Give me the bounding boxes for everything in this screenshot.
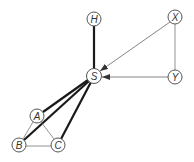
node-a: A (30, 109, 44, 123)
node-c-label: C (54, 140, 62, 151)
node-x-label: X (171, 12, 179, 23)
node-y: Y (168, 70, 182, 84)
node-s: S (87, 69, 102, 84)
node-c: C (51, 138, 65, 152)
node-a-label: A (33, 111, 41, 122)
edge-s-a (43, 80, 88, 112)
node-x: X (168, 10, 182, 24)
edge-x-s (100, 22, 170, 71)
node-b: B (12, 138, 26, 152)
node-b-label: B (16, 140, 23, 151)
graph-diagram: H X S Y A B C (0, 0, 194, 162)
node-h-label: H (90, 14, 98, 25)
node-h: H (87, 12, 101, 26)
node-s-label: S (91, 71, 98, 82)
edge-s-c (61, 82, 91, 139)
edge-a-c (41, 122, 54, 139)
